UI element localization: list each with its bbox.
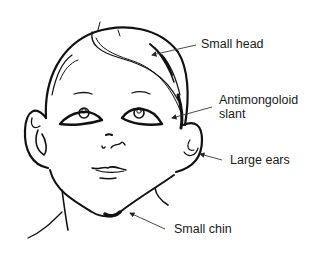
label-small-head: Small head [201,37,264,51]
leader-lines [130,45,222,229]
head-outline [25,22,202,238]
label-antimongoloid-line2: slant [219,107,298,121]
large-ears-leader [200,154,222,160]
label-antimongoloid-slant: Antimongoloid slant [219,93,298,121]
label-small-chin: Small chin [174,222,232,236]
label-antimongoloid-line1: Antimongoloid [219,93,298,107]
label-large-ears: Large ears [230,153,290,167]
small-chin-leader [130,213,165,229]
face-illustration [0,0,324,265]
antimongoloid-leader [172,107,212,118]
